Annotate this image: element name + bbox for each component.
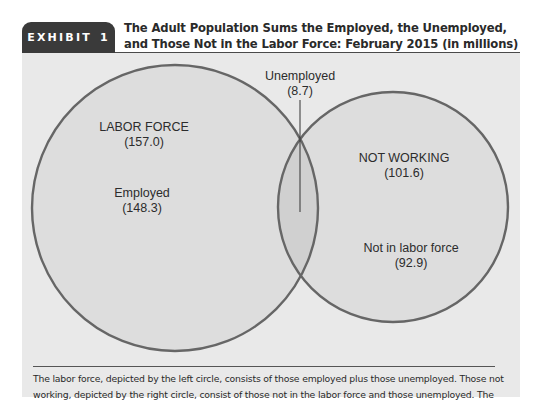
not-working-name: NOT WORKING: [359, 151, 450, 166]
caption-rule: [33, 366, 495, 367]
caption-line-2: working, depicted by the right circle, c…: [33, 387, 503, 402]
employed-label: Employed (148.3): [114, 186, 170, 216]
caption-line-1: The labor force, depicted by the left ci…: [33, 371, 503, 387]
not-in-labor-force-name: Not in labor force: [363, 241, 458, 256]
unemployed-label: Unemployed (8.7): [265, 69, 335, 99]
unemployed-name: Unemployed: [265, 69, 335, 84]
labor-force-label: LABOR FORCE (157.0): [99, 120, 189, 150]
caption: The labor force, depicted by the left ci…: [33, 371, 503, 402]
labor-force-circle: [32, 65, 318, 351]
not-working-label: NOT WORKING (101.6): [359, 151, 450, 181]
not-in-labor-force-label: Not in labor force (92.9): [363, 241, 458, 271]
not-working-value: (101.6): [359, 166, 450, 181]
employed-value: (148.3): [114, 201, 170, 216]
labor-force-value: (157.0): [99, 135, 189, 150]
not-in-labor-force-value: (92.9): [363, 256, 458, 271]
labor-force-name: LABOR FORCE: [99, 120, 189, 135]
employed-name: Employed: [114, 186, 170, 201]
unemployed-value: (8.7): [265, 84, 335, 99]
